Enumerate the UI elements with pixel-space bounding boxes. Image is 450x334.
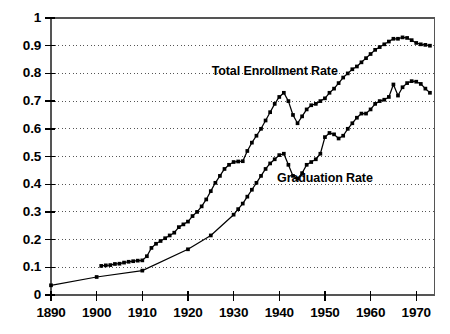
- axis-ticks: [45, 18, 416, 301]
- y-axis-label-5: 0.5: [0, 149, 41, 164]
- chart-plot-area: [0, 0, 450, 334]
- y-axis-label-6: 0.6: [0, 121, 41, 136]
- x-axis-label-8: 1970: [386, 305, 446, 320]
- y-axis-label-1: 0.1: [0, 259, 41, 274]
- series-annotation-1: Graduation Rate: [277, 171, 373, 185]
- y-axis-label-3: 0.3: [0, 204, 41, 219]
- y-axis-label-8: 0.8: [0, 65, 41, 80]
- y-axis-label-4: 0.4: [0, 176, 41, 191]
- series-annotation-0: Total Enrollment Rate: [212, 64, 338, 78]
- y-axis-label-10: 1: [0, 10, 41, 25]
- gridlines: [51, 46, 435, 268]
- y-axis-label-7: 0.7: [0, 93, 41, 108]
- chart-container: 00.10.20.30.40.50.60.70.80.91 1890190019…: [0, 0, 450, 334]
- y-axis-label-9: 0.9: [0, 38, 41, 53]
- y-axis-label-2: 0.2: [0, 232, 41, 247]
- y-axis-label-0: 0: [0, 287, 41, 302]
